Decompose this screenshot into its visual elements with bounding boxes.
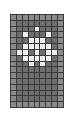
grid-cell-r1-c4[interactable] (35, 21, 40, 26)
grid-cell-r4-c2[interactable] (23, 38, 28, 43)
grid-cell-r13-c7[interactable] (52, 91, 57, 96)
grid-cell-r0-c8[interactable] (58, 15, 63, 20)
grid-cell-r3-c8[interactable] (58, 32, 63, 37)
grid-cell-r8-c3[interactable] (29, 62, 34, 67)
grid-cell-r12-c7[interactable] (52, 85, 57, 90)
grid-cell-r15-c6[interactable] (46, 102, 51, 107)
grid-cell-r15-c8[interactable] (58, 102, 63, 107)
grid-cell-r3-c2[interactable] (23, 32, 28, 37)
grid-cell-r3-c7[interactable] (52, 32, 57, 37)
grid-cell-r0-c1[interactable] (17, 15, 22, 20)
grid-cell-r0-c0[interactable] (11, 15, 16, 20)
grid-cell-r5-c8[interactable] (58, 44, 63, 49)
grid-cell-r14-c8[interactable] (58, 96, 63, 101)
grid-cell-r1-c1[interactable] (17, 21, 22, 26)
grid-cell-r14-c0[interactable] (11, 96, 16, 101)
grid-cell-r1-c3[interactable] (29, 21, 34, 26)
grid-cell-r5-c1[interactable] (17, 44, 22, 49)
grid-cell-r6-c5[interactable] (40, 50, 45, 55)
grid-cell-r10-c3[interactable] (29, 73, 34, 78)
grid-cell-r11-c1[interactable] (17, 79, 22, 84)
grid-cell-r14-c2[interactable] (23, 96, 28, 101)
grid-cell-r9-c2[interactable] (23, 67, 28, 72)
grid-cell-r9-c0[interactable] (11, 67, 16, 72)
grid-cell-r14-c6[interactable] (46, 96, 51, 101)
grid-cell-r4-c1[interactable] (17, 38, 22, 43)
grid-cell-r13-c2[interactable] (23, 91, 28, 96)
grid-cell-r7-c3[interactable] (29, 56, 34, 61)
grid-cell-r0-c5[interactable] (40, 15, 45, 20)
grid-cell-r11-c5[interactable] (40, 79, 45, 84)
grid-cell-r7-c2[interactable] (23, 56, 28, 61)
grid-cell-r14-c3[interactable] (29, 96, 34, 101)
grid-cell-r11-c6[interactable] (46, 79, 51, 84)
grid-cell-r13-c5[interactable] (40, 91, 45, 96)
grid-cell-r15-c7[interactable] (52, 102, 57, 107)
grid-cell-r9-c3[interactable] (29, 67, 34, 72)
grid-cell-r14-c4[interactable] (35, 96, 40, 101)
grid-cell-r6-c0[interactable] (11, 50, 16, 55)
grid-cell-r1-c8[interactable] (58, 21, 63, 26)
grid-cell-r6-c8[interactable] (58, 50, 63, 55)
grid-cell-r2-c6[interactable] (46, 27, 51, 32)
grid-cell-r3-c6[interactable] (46, 32, 51, 37)
grid-cell-r7-c6[interactable] (46, 56, 51, 61)
grid-cell-r9-c8[interactable] (58, 67, 63, 72)
grid-cell-r11-c0[interactable] (11, 79, 16, 84)
grid-cell-r3-c5[interactable] (40, 32, 45, 37)
grid-cell-r9-c7[interactable] (52, 67, 57, 72)
grid-cell-r5-c3[interactable] (29, 44, 34, 49)
grid-cell-r4-c5[interactable] (40, 38, 45, 43)
grid-cell-r12-c1[interactable] (17, 85, 22, 90)
grid-cell-r2-c5[interactable] (40, 27, 45, 32)
grid-cell-r2-c3[interactable] (29, 27, 34, 32)
grid-cell-r15-c2[interactable] (23, 102, 28, 107)
grid-cell-r8-c6[interactable] (46, 62, 51, 67)
grid-cell-r9-c6[interactable] (46, 67, 51, 72)
grid-cell-r3-c3[interactable] (29, 32, 34, 37)
grid-cell-r2-c2[interactable] (23, 27, 28, 32)
grid-cell-r15-c3[interactable] (29, 102, 34, 107)
grid-cell-r13-c3[interactable] (29, 91, 34, 96)
grid-cell-r5-c5[interactable] (40, 44, 45, 49)
grid-cell-r0-c4[interactable] (35, 15, 40, 20)
grid-cell-r7-c1[interactable] (17, 56, 22, 61)
grid-cell-r15-c5[interactable] (40, 102, 45, 107)
grid-cell-r2-c8[interactable] (58, 27, 63, 32)
grid-cell-r12-c0[interactable] (11, 85, 16, 90)
grid-cell-r9-c5[interactable] (40, 67, 45, 72)
grid-cell-r10-c6[interactable] (46, 73, 51, 78)
grid-cell-r8-c4[interactable] (35, 62, 40, 67)
grid-cell-r1-c0[interactable] (11, 21, 16, 26)
grid-cell-r3-c1[interactable] (17, 32, 22, 37)
grid-cell-r12-c6[interactable] (46, 85, 51, 90)
grid-cell-r2-c7[interactable] (52, 27, 57, 32)
grid-cell-r6-c7[interactable] (52, 50, 57, 55)
grid-cell-r2-c0[interactable] (11, 27, 16, 32)
grid-cell-r8-c1[interactable] (17, 62, 22, 67)
grid-cell-r4-c6[interactable] (46, 38, 51, 43)
grid-cell-r4-c4[interactable] (35, 38, 40, 43)
grid-cell-r15-c0[interactable] (11, 102, 16, 107)
grid-cell-r0-c7[interactable] (52, 15, 57, 20)
grid-cell-r9-c4[interactable] (35, 67, 40, 72)
grid-cell-r4-c3[interactable] (29, 38, 34, 43)
grid-cell-r6-c2[interactable] (23, 50, 28, 55)
grid-cell-r10-c5[interactable] (40, 73, 45, 78)
grid-cell-r7-c8[interactable] (58, 56, 63, 61)
grid-cell-r7-c5[interactable] (40, 56, 45, 61)
grid-cell-r6-c6[interactable] (46, 50, 51, 55)
grid-cell-r3-c0[interactable] (11, 32, 16, 37)
grid-cell-r13-c4[interactable] (35, 91, 40, 96)
grid-cell-r10-c4[interactable] (35, 73, 40, 78)
grid-cell-r6-c3[interactable] (29, 50, 34, 55)
grid-cell-r5-c4[interactable] (35, 44, 40, 49)
grid-cell-r0-c2[interactable] (23, 15, 28, 20)
grid-cell-r5-c6[interactable] (46, 44, 51, 49)
grid-cell-r5-c7[interactable] (52, 44, 57, 49)
grid-cell-r4-c7[interactable] (52, 38, 57, 43)
grid-cell-r10-c8[interactable] (58, 73, 63, 78)
grid-cell-r6-c1[interactable] (17, 50, 22, 55)
grid-cell-r9-c1[interactable] (17, 67, 22, 72)
grid-cell-r1-c5[interactable] (40, 21, 45, 26)
